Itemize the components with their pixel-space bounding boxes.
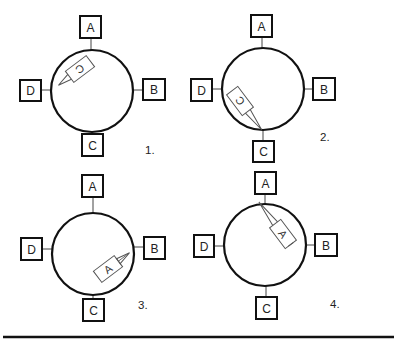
step-label: 3. <box>138 299 148 311</box>
node-b: B <box>315 234 337 256</box>
node-d: D <box>21 238 42 260</box>
panel-3: A B C D A 3. <box>21 175 165 321</box>
node-b: B <box>313 78 335 100</box>
node-a-label: A <box>88 180 96 194</box>
panel-2: A B C D C 2. <box>191 15 335 162</box>
node-c-label: C <box>88 139 97 153</box>
node-a-label: A <box>257 20 265 34</box>
panel-1: A B C D C 1. <box>20 16 165 156</box>
node-c-label: C <box>259 145 268 159</box>
packet-c: C <box>54 56 94 91</box>
node-b: B <box>143 79 165 100</box>
node-d-label: D <box>27 243 36 257</box>
ring <box>51 50 133 132</box>
node-c: C <box>256 297 277 319</box>
step-label: 2. <box>320 131 330 143</box>
node-d: D <box>194 235 214 257</box>
node-c-label: C <box>262 302 271 316</box>
node-a: A <box>80 16 101 38</box>
node-a-label: A <box>86 21 94 35</box>
node-d: D <box>191 79 212 101</box>
step-label: 1. <box>145 144 155 156</box>
node-d-label: D <box>197 84 206 98</box>
node-b-label: B <box>322 239 330 253</box>
node-d-label: D <box>200 240 209 254</box>
step-label: 4. <box>330 298 340 310</box>
token-ring-figure: A B C D C 1. A <box>0 0 394 340</box>
node-b-label: B <box>320 83 328 97</box>
node-b: B <box>144 237 165 259</box>
node-a: A <box>255 172 276 194</box>
node-a-label: A <box>261 177 269 191</box>
node-b-label: B <box>150 242 158 256</box>
node-a: A <box>251 15 272 37</box>
node-c: C <box>253 141 274 162</box>
node-a: A <box>82 175 103 197</box>
ring <box>52 213 134 295</box>
panel-4: A B C D A 4. <box>194 172 340 319</box>
node-d-label: D <box>26 84 35 98</box>
node-c: C <box>82 134 103 156</box>
node-c-label: C <box>89 304 98 318</box>
ring <box>224 204 306 286</box>
node-c: C <box>83 299 104 321</box>
node-d: D <box>20 80 41 101</box>
node-b-label: B <box>150 83 158 97</box>
